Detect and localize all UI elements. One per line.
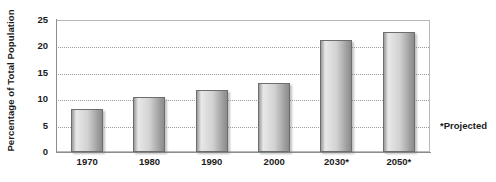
x-axis-spine xyxy=(56,152,431,153)
y-axis-title-text: Percentage of Total Population xyxy=(5,9,16,151)
bar-slot xyxy=(181,20,243,152)
x-axis-tick-labels: 19701980199020002030*2050* xyxy=(56,156,430,176)
bar xyxy=(133,97,165,152)
x-axis-tick-label: 2000 xyxy=(243,156,305,167)
x-axis-tick-label: 1970 xyxy=(56,156,118,167)
y-axis-tick-label: 20 xyxy=(22,41,48,51)
bar xyxy=(320,40,352,152)
bar xyxy=(196,90,228,152)
y-axis-tick-label: 15 xyxy=(22,68,48,78)
bar-slot xyxy=(118,20,180,152)
y-axis-title: Percentage of Total Population xyxy=(0,0,20,160)
bar xyxy=(258,83,290,152)
y-axis-tick-label: 10 xyxy=(22,94,48,104)
x-axis-tick-label: 2050* xyxy=(368,156,430,167)
bar-slot xyxy=(368,20,430,152)
y-axis-tick-label: 0 xyxy=(22,147,48,157)
bars-layer xyxy=(56,20,430,152)
x-axis-tick-label: 1990 xyxy=(181,156,243,167)
x-axis-tick-label: 2030* xyxy=(305,156,367,167)
bar-slot xyxy=(243,20,305,152)
y-axis-tick-label: 25 xyxy=(22,15,48,25)
bar-slot xyxy=(56,20,118,152)
bar-chart-figure: Percentage of Total Population 051015202… xyxy=(0,0,496,182)
x-axis-tick-label: 1980 xyxy=(118,156,180,167)
y-axis-tick-label: 5 xyxy=(22,121,48,131)
bar-slot xyxy=(305,20,367,152)
bar xyxy=(383,32,415,152)
y-axis-tick-labels: 0510152025 xyxy=(22,14,48,158)
bar xyxy=(71,109,103,152)
projected-footnote: *Projected xyxy=(440,120,487,131)
